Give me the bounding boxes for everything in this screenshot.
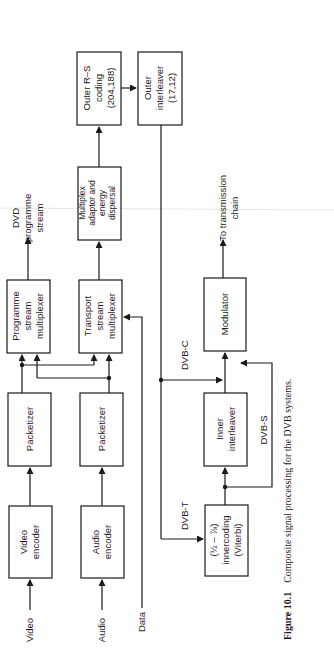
- svg-text:Audio: Audio: [90, 530, 101, 554]
- svg-text:Programme: Programme: [10, 291, 21, 341]
- svg-text:coding: coding: [93, 74, 104, 102]
- svg-text:Multiplex: Multiplex: [77, 185, 87, 219]
- svg-text:stream: stream: [22, 301, 33, 330]
- video-encoder-label: Video encoder: [18, 525, 41, 559]
- svg-text:Packetizer: Packetizer: [24, 407, 35, 451]
- modulator-label: Modulator: [219, 293, 230, 335]
- svg-text:multiplexer: multiplexer: [34, 293, 45, 339]
- svg-text:energy: energy: [97, 189, 107, 216]
- data-to-transport-mux: [124, 317, 142, 608]
- svg-text:stream: stream: [94, 301, 105, 330]
- scan-artifact-line: [0, 208, 334, 210]
- dvb-t-label: DVB-T: [179, 501, 190, 530]
- svg-text:interleaver: interleaver: [226, 407, 237, 451]
- svg-text:adaptor and: adaptor and: [87, 180, 97, 226]
- svg-text:Modulator: Modulator: [219, 293, 230, 335]
- svg-text:DVB-C: DVB-C: [179, 340, 190, 370]
- svg-text:DVB-S: DVB-S: [258, 415, 269, 444]
- dvd-output-label: DVD programme stream: [10, 194, 45, 243]
- junction-dot: [107, 376, 111, 380]
- svg-text:Figure 10.1 Composite si: Figure 10.1 Composite signal processing …: [277, 379, 294, 640]
- svg-text:DVD: DVD: [10, 208, 21, 228]
- svg-text:Outer R–S: Outer R–S: [81, 66, 92, 111]
- svg-text:To transmission: To transmission: [217, 175, 228, 241]
- svg-text:Transport: Transport: [82, 295, 93, 336]
- svg-text:(17,12): (17,12): [166, 73, 177, 103]
- caption-text: Composite signal processing for the DVB …: [282, 379, 293, 583]
- dvb-s-label: DVB-S: [258, 415, 269, 444]
- caption-number: Figure 10.1: [282, 592, 293, 640]
- video-input-label: Video: [24, 618, 35, 642]
- svg-text:encoder: encoder: [30, 525, 41, 559]
- svg-text:Video: Video: [24, 618, 35, 642]
- junction-dot: [20, 363, 24, 367]
- svg-text:Data: Data: [136, 611, 147, 632]
- data-input-label: Data: [136, 611, 147, 632]
- svg-text:dispersal: dispersal: [107, 186, 117, 220]
- svg-text:Outer: Outer: [142, 76, 153, 100]
- dvb-c-label: DVB-C: [179, 340, 190, 370]
- svg-text:interleaver: interleaver: [154, 66, 165, 110]
- audio-encoder-label: Audio encoder: [90, 525, 113, 559]
- svg-text:(204,188): (204,188): [105, 68, 116, 109]
- packetizer-video-label: Packetizer: [24, 407, 35, 451]
- packetizer-audio-label: Packetizer: [96, 407, 107, 451]
- svg-text:chain: chain: [229, 197, 240, 220]
- svg-text:encoder: encoder: [102, 525, 113, 559]
- svg-text:(½ – ⅞): (½ – ⅞): [208, 524, 219, 557]
- svg-text:Packetizer: Packetizer: [96, 407, 107, 451]
- svg-text:Inner: Inner: [214, 418, 225, 440]
- svg-text:Video: Video: [18, 530, 29, 554]
- dvb-block-diagram: Outer R–S coding (204,188) Outer interle…: [0, 0, 334, 671]
- svg-text:multiplexer: multiplexer: [106, 293, 117, 339]
- svg-text:DVB-T: DVB-T: [179, 501, 190, 530]
- svg-text:innercoding: innercoding: [220, 515, 231, 564]
- figure-caption: Figure 10.1 Composite signal processing …: [277, 379, 294, 640]
- svg-text:stream: stream: [34, 203, 45, 232]
- svg-text:programme: programme: [22, 194, 33, 243]
- audio-input-label: Audio: [96, 618, 107, 642]
- junction-dot: [159, 378, 163, 382]
- svg-text:(Viterbi): (Viterbi): [232, 523, 243, 556]
- svg-text:Audio: Audio: [96, 618, 107, 642]
- transmission-output-label: To transmission chain: [217, 175, 240, 241]
